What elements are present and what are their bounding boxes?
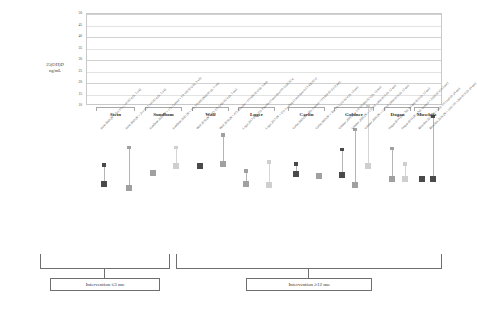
baseline-marker	[430, 176, 436, 182]
y-axis-tick-45: 45	[60, 23, 82, 27]
baseline-marker	[150, 170, 156, 176]
baseline-marker	[419, 176, 425, 182]
y-axis-tick-15: 15	[60, 92, 82, 96]
post-intervention-marker	[102, 163, 105, 166]
bracket-stem-2	[308, 268, 309, 278]
baseline-marker	[101, 181, 107, 187]
bracket-label-box-2: Intervention ≥12 mo	[246, 278, 372, 291]
post-intervention-marker	[267, 160, 270, 163]
y-axis-tick-25: 25	[60, 69, 82, 73]
gridline-35	[87, 49, 441, 50]
post-intervention-marker	[294, 162, 297, 165]
connector-line	[129, 147, 130, 188]
connector-line	[223, 135, 224, 164]
group-tick-stein	[96, 107, 135, 108]
post-intervention-marker	[127, 146, 130, 149]
bracket-stem-1	[104, 268, 105, 278]
post-intervention-marker	[403, 162, 406, 165]
group-tick-carlin	[288, 107, 325, 108]
y-axis-tick-50: 50	[60, 11, 82, 15]
baseline-marker	[389, 176, 395, 182]
y-axis-tick-10: 10	[60, 103, 82, 107]
bracket-2	[176, 254, 442, 269]
post-intervention-marker	[244, 169, 247, 172]
y-axis-tick-35: 35	[60, 46, 82, 50]
baseline-marker	[316, 173, 322, 179]
baseline-marker	[293, 171, 299, 177]
baseline-marker	[365, 163, 371, 169]
baseline-marker	[352, 182, 358, 188]
connector-line	[392, 148, 393, 178]
baseline-marker	[220, 161, 226, 167]
y-axis-tick-20: 20	[60, 80, 82, 84]
baseline-marker	[266, 182, 272, 188]
post-intervention-marker	[221, 133, 224, 136]
baseline-marker	[126, 185, 132, 191]
baseline-marker	[173, 163, 179, 169]
y-axis-tick-30: 30	[60, 57, 82, 61]
bracket-label-box-1: Intervention ≤3 mo	[50, 278, 160, 291]
baseline-marker	[197, 163, 203, 169]
y-axis-tick-40: 40	[60, 34, 82, 38]
baseline-marker	[402, 176, 408, 182]
gridline-25	[87, 72, 441, 73]
baseline-marker	[339, 172, 345, 178]
post-intervention-marker	[174, 146, 177, 149]
gridline-50	[87, 14, 441, 15]
baseline-marker	[243, 181, 249, 187]
gridline-30	[87, 60, 441, 61]
bracket-1	[40, 254, 170, 269]
connector-line	[355, 130, 356, 185]
post-intervention-marker	[390, 147, 393, 150]
gridline-40	[87, 37, 441, 38]
gridline-45	[87, 26, 441, 27]
post-intervention-marker	[340, 148, 343, 151]
